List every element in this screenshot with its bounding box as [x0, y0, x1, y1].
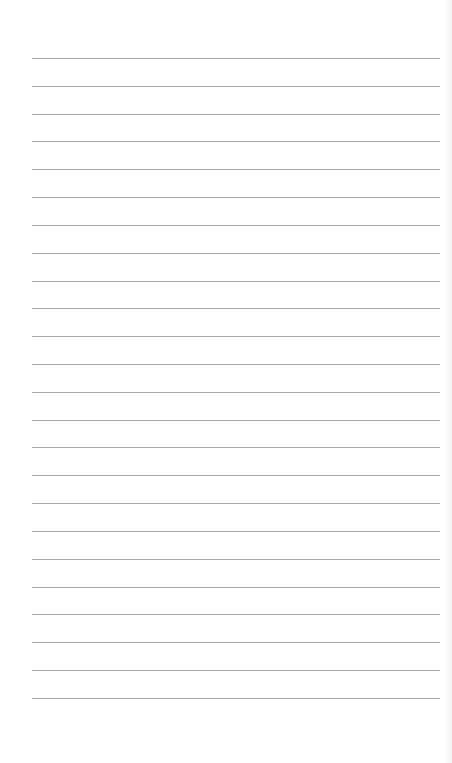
ruled-line — [32, 670, 440, 671]
ruled-line — [32, 364, 440, 365]
ruled-line — [32, 197, 440, 198]
ruled-line — [32, 392, 440, 393]
lined-page — [0, 0, 452, 763]
ruled-line — [32, 447, 440, 448]
ruled-line — [32, 698, 440, 699]
ruled-line — [32, 642, 440, 643]
ruled-line — [32, 114, 440, 115]
ruled-line — [32, 475, 440, 476]
ruled-line — [32, 308, 440, 309]
ruled-line — [32, 141, 440, 142]
ruled-line — [32, 420, 440, 421]
ruled-line — [32, 225, 440, 226]
ruled-line — [32, 281, 440, 282]
ruled-line — [32, 336, 440, 337]
ruled-line — [32, 559, 440, 560]
ruled-line — [32, 503, 440, 504]
ruled-line — [32, 614, 440, 615]
ruled-line — [32, 58, 440, 59]
ruled-line — [32, 169, 440, 170]
ruled-line — [32, 86, 440, 87]
ruled-line — [32, 531, 440, 532]
page-edge-shadow — [444, 0, 452, 763]
ruled-line — [32, 587, 440, 588]
ruled-line — [32, 253, 440, 254]
